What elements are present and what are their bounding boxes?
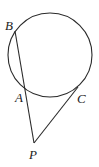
label-c: C [77, 91, 86, 106]
label-a: A [14, 90, 23, 105]
geometry-diagram: B A C P [0, 0, 99, 167]
label-b: B [5, 18, 13, 33]
circle [8, 13, 92, 97]
label-p: P [28, 147, 37, 162]
segment-bp [15, 31, 34, 143]
